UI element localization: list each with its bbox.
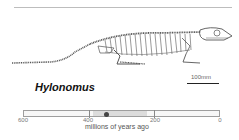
tick-label-0: 0 — [218, 117, 221, 123]
scale-bar — [187, 83, 219, 84]
timeline-axis-title: millions of years ago — [85, 123, 149, 130]
time-range-shading — [93, 111, 147, 116]
top-divider — [14, 7, 232, 8]
tick-label-200: 200 — [150, 117, 160, 123]
scale-bar-label: 100mm — [191, 74, 211, 80]
species-name: Hylonomus — [35, 81, 95, 93]
tick-label-600: 600 — [18, 117, 28, 123]
skeleton-illustration — [10, 26, 235, 76]
occurrence-marker — [104, 112, 109, 117]
geologic-timeline-bar — [23, 110, 220, 117]
